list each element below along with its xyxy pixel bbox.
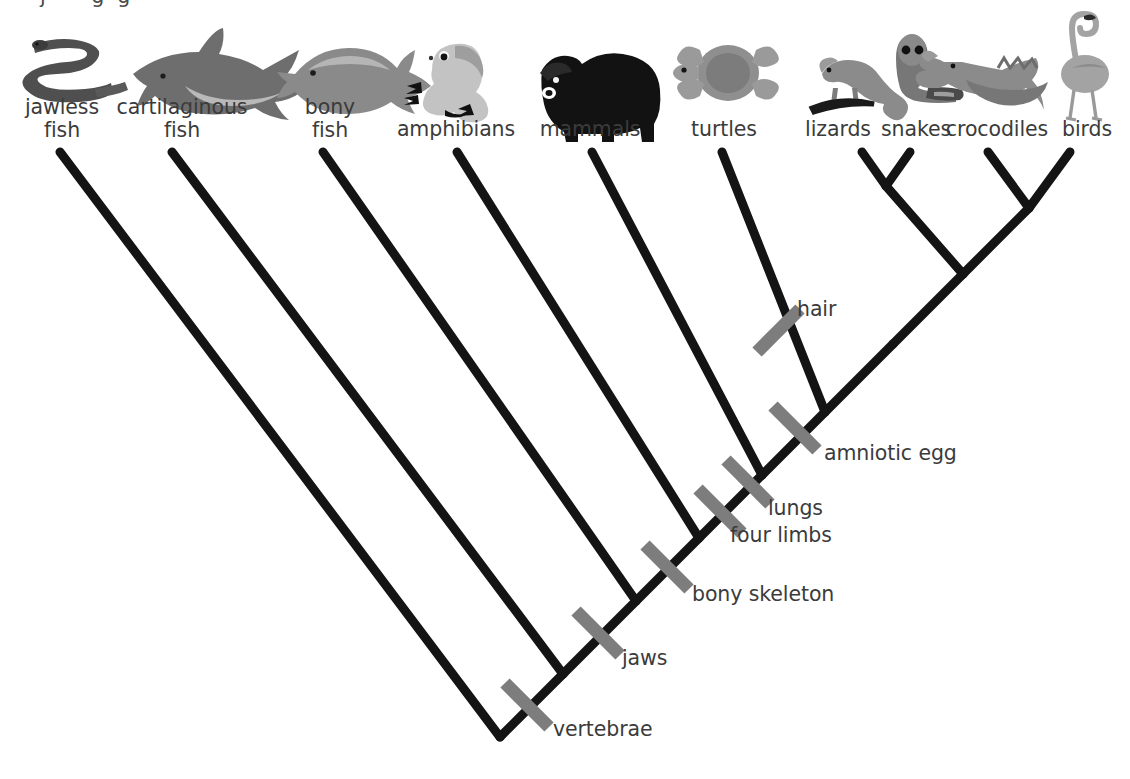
branch-snakes <box>886 152 910 186</box>
icon-turtle <box>673 45 779 101</box>
trait-label-amniotic-egg: amniotic egg <box>824 442 957 466</box>
trait-label-jaws: jaws <box>622 647 667 671</box>
icon-bear <box>540 53 660 142</box>
trait-label-bony-skeleton: bony skeleton <box>692 583 834 607</box>
tick-lungs <box>726 460 770 504</box>
cladogram-figure: j g g <box>0 0 1130 779</box>
branch-bony-fish <box>323 152 636 601</box>
branch-spine-reptile <box>825 344 893 412</box>
branch-lizards <box>862 152 886 186</box>
branch-birds <box>1029 152 1070 208</box>
branch-turtles <box>722 152 825 412</box>
branch-amphibians <box>457 152 699 538</box>
trait-label-four-limbs: four limbs <box>730 524 832 548</box>
icon-shark <box>133 28 301 120</box>
branch-jawless-fish <box>60 152 500 737</box>
branch-crocodiles <box>988 152 1029 208</box>
branch-spine-diapsid <box>893 274 963 344</box>
trait-label-hair: hair <box>797 298 836 322</box>
cladogram-canvas <box>0 0 1130 779</box>
branch-archosaur-stem <box>963 208 1029 274</box>
icon-chameleon <box>812 57 908 120</box>
icon-flamingo <box>1061 14 1109 120</box>
branch-squamate-stem <box>886 186 963 274</box>
trait-label-vertebrae: vertebrae <box>553 718 653 742</box>
icon-eel-lamprey <box>22 39 128 102</box>
trait-label-lungs: lungs <box>768 497 823 521</box>
